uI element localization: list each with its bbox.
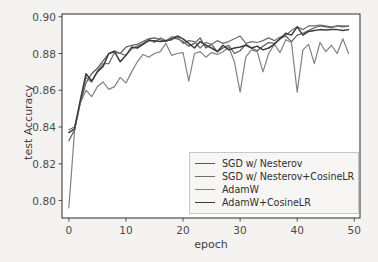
legend-item: AdamW (195, 183, 352, 196)
x-tick-label: 20 (176, 224, 190, 236)
legend-item-label: SGD w/ Nesterov (222, 158, 302, 169)
legend-line-swatch (195, 176, 215, 177)
legend-item: AdamW+CosineLR (195, 196, 352, 209)
chart-legend: SGD w/ NesterovSGD w/ Nesterov+CosineLRA… (189, 152, 359, 214)
x-tick-label: 40 (290, 224, 304, 236)
legend-item-label: AdamW+CosineLR (222, 197, 311, 208)
legend-item-label: SGD w/ Nesterov+CosineLR (222, 171, 354, 182)
legend-line-swatch (195, 163, 215, 164)
chart-canvas (0, 0, 378, 262)
legend-item: SGD w/ Nesterov (195, 157, 352, 170)
x-tick-label: 30 (233, 224, 247, 236)
legend-item: SGD w/ Nesterov+CosineLR (195, 170, 352, 183)
y-axis-label: test Accuracy (22, 73, 35, 173)
x-tick-label: 10 (119, 224, 133, 236)
legend-line-swatch (195, 189, 215, 190)
y-tick-label: 0.88 (20, 48, 56, 60)
y-tick-label: 0.90 (20, 11, 56, 23)
x-tick-label: 50 (348, 224, 362, 236)
legend-item-label: AdamW (222, 184, 259, 195)
chart-figure: 0.800.820.840.860.880.90 01020304050 epo… (0, 0, 378, 262)
legend-line-swatch (195, 202, 215, 203)
x-axis-label: epoch (194, 238, 228, 251)
x-tick-label: 0 (65, 224, 72, 236)
y-tick-label: 0.80 (20, 195, 56, 207)
